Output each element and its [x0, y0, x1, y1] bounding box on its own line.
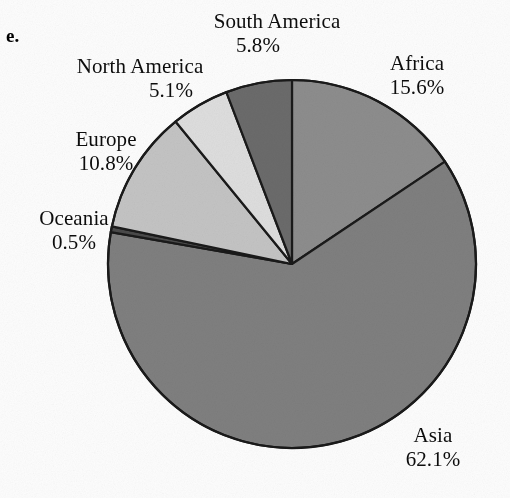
- slice-label-asia: Asia 62.1%: [378, 424, 488, 471]
- slice-label-north-america-name: North America: [50, 55, 230, 79]
- slice-label-oceania-name: Oceania: [16, 207, 132, 231]
- slice-label-africa: Africa 15.6%: [362, 52, 472, 99]
- slice-label-europe-name: Europe: [42, 128, 170, 152]
- slice-label-south-america: South America 5.8%: [184, 10, 370, 57]
- slice-label-asia-percent: 62.1%: [378, 448, 488, 472]
- slice-label-europe: Europe 10.8%: [42, 128, 170, 175]
- pie-chart-figure: e. South America 5.8% North America 5.1%…: [0, 0, 510, 498]
- slice-label-south-america-name: South America: [184, 10, 370, 34]
- slice-label-africa-name: Africa: [362, 52, 472, 76]
- slice-label-oceania: Oceania 0.5%: [16, 207, 132, 254]
- slice-label-north-america: North America 5.1%: [50, 55, 230, 102]
- slice-label-oceania-percent: 0.5%: [16, 231, 132, 255]
- slice-label-africa-percent: 15.6%: [362, 76, 472, 100]
- slice-label-north-america-percent: 5.1%: [112, 79, 230, 103]
- slice-label-europe-percent: 10.8%: [42, 152, 170, 176]
- slice-label-asia-name: Asia: [378, 424, 488, 448]
